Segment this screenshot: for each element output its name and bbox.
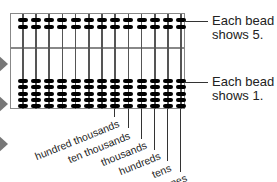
upper-bead: [123, 18, 133, 22]
lower-bead: [137, 104, 147, 108]
lower-bead: [31, 79, 41, 83]
lower-bead: [123, 98, 133, 102]
lower-bead: [71, 85, 81, 89]
lower-bead: [150, 104, 160, 108]
lower-bead: [163, 85, 173, 89]
lower-bead: [71, 104, 81, 108]
lower-bead: [31, 104, 41, 108]
lower-bead: [84, 98, 94, 102]
lower-label-line2: shows 1.: [212, 89, 274, 103]
upper-label-line2: shows 5.: [212, 28, 274, 42]
lower-bead: [163, 98, 173, 102]
place-leader: [167, 109, 168, 161]
arrow-icon: [0, 95, 8, 113]
lower-bead: [163, 104, 173, 108]
lower-bead: [137, 85, 147, 89]
upper-bead: [97, 18, 107, 22]
upper-bead: [163, 25, 173, 29]
place-leader: [128, 109, 129, 128]
lower-bead: [31, 98, 41, 102]
lower-bead: [44, 104, 54, 108]
lower-bead: [176, 98, 186, 102]
lower-bead: [110, 79, 120, 83]
upper-bead: [97, 25, 107, 29]
lower-bead: [123, 85, 133, 89]
upper-bead: [57, 25, 67, 29]
upper-bead: [137, 25, 147, 29]
lower-bead: [57, 92, 67, 96]
lower-leader: [184, 82, 208, 83]
upper-leader: [184, 21, 208, 22]
lower-label: Each bead shows 1.: [212, 75, 274, 103]
upper-bead: [71, 18, 81, 22]
upper-bead: [150, 18, 160, 22]
lower-bead: [97, 92, 107, 96]
lower-bead: [137, 79, 147, 83]
lower-bead: [150, 85, 160, 89]
upper-bead: [71, 25, 81, 29]
lower-bead: [18, 104, 28, 108]
lower-bead: [110, 98, 120, 102]
lower-bead: [97, 98, 107, 102]
lower-bead: [137, 98, 147, 102]
lower-bead: [31, 92, 41, 96]
lower-label-line1: Each bead: [212, 75, 274, 89]
place-leader: [180, 109, 181, 172]
place-leader: [114, 109, 115, 117]
lower-bead: [176, 104, 186, 108]
upper-label: Each bead shows 5.: [212, 14, 274, 42]
lower-bead: [18, 98, 28, 102]
lower-bead: [110, 85, 120, 89]
lower-bead: [97, 104, 107, 108]
lower-bead: [44, 79, 54, 83]
lower-bead: [84, 104, 94, 108]
upper-bead: [44, 18, 54, 22]
lower-bead: [57, 104, 67, 108]
lower-bead: [176, 85, 186, 89]
upper-bead: [31, 18, 41, 22]
upper-bead: [123, 25, 133, 29]
lower-bead: [110, 104, 120, 108]
upper-bead: [57, 18, 67, 22]
upper-bead: [150, 25, 160, 29]
lower-bead: [163, 92, 173, 96]
lower-bead: [97, 79, 107, 83]
lower-bead: [84, 85, 94, 89]
upper-bead: [176, 25, 186, 29]
place-leader: [141, 109, 142, 139]
lower-bead: [137, 92, 147, 96]
upper-bead: [18, 18, 28, 22]
upper-bead: [84, 25, 94, 29]
lower-bead: [44, 92, 54, 96]
lower-bead: [31, 85, 41, 89]
lower-bead: [71, 92, 81, 96]
lower-bead: [71, 79, 81, 83]
lower-bead: [110, 92, 120, 96]
upper-bead: [163, 18, 173, 22]
lower-bead: [150, 98, 160, 102]
upper-bead: [18, 25, 28, 29]
arrow-icon: [0, 55, 8, 73]
lower-bead: [57, 98, 67, 102]
lower-bead: [57, 79, 67, 83]
lower-bead: [18, 79, 28, 83]
upper-bead: [44, 25, 54, 29]
place-leader: [154, 109, 155, 150]
upper-label-line1: Each bead: [212, 14, 274, 28]
upper-bead: [84, 18, 94, 22]
upper-bead: [31, 25, 41, 29]
lower-bead: [150, 92, 160, 96]
lower-bead: [71, 98, 81, 102]
lower-bead: [44, 98, 54, 102]
lower-bead: [123, 92, 133, 96]
lower-bead: [44, 85, 54, 89]
upper-bead: [110, 18, 120, 22]
lower-bead: [57, 85, 67, 89]
lower-bead: [18, 92, 28, 96]
lower-bead: [84, 79, 94, 83]
lower-bead: [97, 85, 107, 89]
lower-bead: [176, 92, 186, 96]
arrow-icon: [0, 135, 8, 153]
lower-bead: [84, 92, 94, 96]
lower-bead: [123, 79, 133, 83]
